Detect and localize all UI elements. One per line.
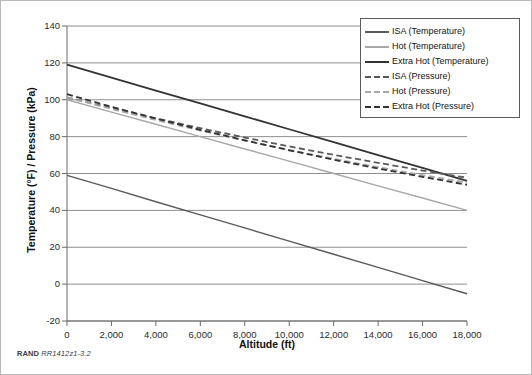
legend-label-extra-hot-temperature: Extra Hot (Temperature) (390, 56, 489, 66)
credit-organization: RAND (17, 349, 39, 358)
figure-credit: RAND RR1412z1-3.2 (17, 349, 91, 358)
legend-item: ISA (Temperature) (364, 23, 515, 38)
legend-swatch-isa-temperature (364, 25, 390, 37)
legend-swatch-extra-hot-temperature (364, 55, 390, 67)
y-tick-label: 120 (15, 57, 60, 68)
legend-label-isa-temperature: ISA (Temperature) (390, 26, 465, 36)
y-tick-label: 0 (15, 278, 60, 289)
legend-label-extra-hot-pressure: Extra Hot (Pressure) (390, 101, 474, 111)
y-tick-label: -20 (15, 315, 60, 326)
legend-label-hot-temperature: Hot (Temperature) (390, 41, 465, 51)
x-tick-label: 18,000 (437, 329, 497, 340)
chart-figure: Temperature (°F) / Pressure (kPa) Altitu… (0, 0, 532, 375)
y-tick-label: 40 (15, 204, 60, 215)
legend-item: Extra Hot (Pressure) (364, 98, 515, 113)
legend-swatch-hot-pressure (364, 85, 390, 97)
y-tick-label: 20 (15, 241, 60, 252)
legend-swatch-hot-temperature (364, 40, 390, 52)
y-tick-label: 100 (15, 94, 60, 105)
credit-document-id: RR1412z1-3.2 (41, 349, 91, 358)
legend-item: Hot (Pressure) (364, 83, 515, 98)
legend-swatch-isa-pressure (364, 70, 390, 82)
y-tick-label: 60 (15, 168, 60, 179)
chart-legend: ISA (Temperature) Hot (Temperature) Extr… (360, 18, 520, 118)
y-tick-label: 80 (15, 131, 60, 142)
y-tick-label: 140 (15, 20, 60, 31)
legend-item: Extra Hot (Temperature) (364, 53, 515, 68)
legend-item: ISA (Pressure) (364, 68, 515, 83)
legend-item: Hot (Temperature) (364, 38, 515, 53)
legend-label-hot-pressure: Hot (Pressure) (390, 86, 451, 96)
legend-label-isa-pressure: ISA (Pressure) (390, 71, 451, 81)
legend-swatch-extra-hot-pressure (364, 100, 390, 112)
